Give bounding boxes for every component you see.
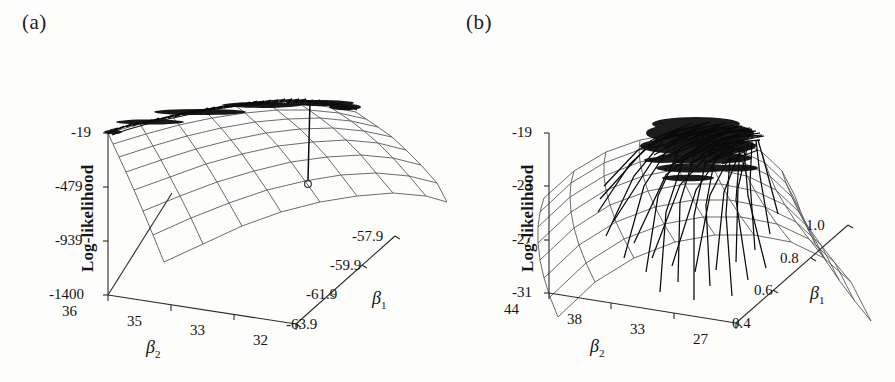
panel-a-x-tick-2: 33 bbox=[190, 322, 205, 339]
panel-a-x-axis-title-main: β bbox=[146, 337, 155, 357]
panel-a-y-axis-title-main: β bbox=[372, 288, 381, 308]
figure-container: (a) bbox=[0, 0, 895, 382]
panel-a-z-tick-3: -1400 bbox=[49, 286, 84, 303]
panel-a-surface-mesh bbox=[108, 104, 447, 262]
panel-b-z-tick-0: -19 bbox=[512, 124, 532, 141]
panel-b-z-tick-1: -23 bbox=[512, 177, 532, 194]
panel-b-x-tick-2: 33 bbox=[630, 321, 645, 338]
panel-a-x-axis-title: β2 bbox=[146, 337, 160, 360]
panel-b-x-axis-title-main: β bbox=[590, 336, 599, 356]
panel-b-y-tick-2: 0.6 bbox=[754, 282, 773, 299]
panel-b-x-tick-3: 27 bbox=[693, 331, 708, 348]
panel-a-x-axis-title-sub: 2 bbox=[155, 348, 161, 360]
panel-b-y-tick-3: 0.4 bbox=[732, 315, 751, 332]
panel-b-y-axis-title: β1 bbox=[810, 283, 824, 306]
panel-b-z-tick-2: -27 bbox=[512, 231, 532, 248]
panel-b-trajectory-density bbox=[640, 117, 758, 181]
panel-a-y-axis-title-sub: 1 bbox=[381, 299, 387, 311]
panel-b: (b) bbox=[448, 0, 895, 382]
panel-a-y-tick-0: -57.9 bbox=[352, 228, 383, 245]
panel-b-y-tick-1: 0.8 bbox=[780, 250, 799, 267]
panel-a: (a) bbox=[0, 0, 447, 382]
panel-a-drop-line bbox=[308, 101, 310, 180]
panel-a-y-tick-1: -59.9 bbox=[330, 257, 361, 274]
panel-b-y-axis-title-main: β bbox=[810, 283, 819, 303]
panel-a-optimum-marker bbox=[305, 181, 312, 188]
panel-a-z-tick-0: -19 bbox=[71, 124, 91, 141]
panel-b-y-tick-0: 1.0 bbox=[806, 217, 825, 234]
panel-a-y-axis-title: β1 bbox=[372, 288, 386, 311]
panel-a-y-tick-2: -61.9 bbox=[306, 286, 337, 303]
panel-b-x-axis-title: β2 bbox=[590, 336, 604, 359]
panel-b-x-tick-1: 38 bbox=[567, 311, 582, 328]
panel-a-y-tick-3: -63.9 bbox=[286, 316, 317, 333]
panel-b-y-axis-title-sub: 1 bbox=[819, 294, 825, 306]
panel-a-z-tick-2: -939 bbox=[55, 232, 83, 249]
panel-b-z-tick-3: -31 bbox=[512, 284, 532, 301]
panel-a-z-tick-1: -479 bbox=[55, 178, 83, 195]
panel-b-x-axis-title-sub: 2 bbox=[599, 347, 605, 359]
panel-a-x-tick-0: 36 bbox=[62, 303, 77, 320]
panel-a-x-tick-3: 32 bbox=[253, 332, 268, 349]
panel-b-x-tick-0: 44 bbox=[504, 301, 519, 318]
panel-a-x-tick-1: 35 bbox=[127, 313, 142, 330]
